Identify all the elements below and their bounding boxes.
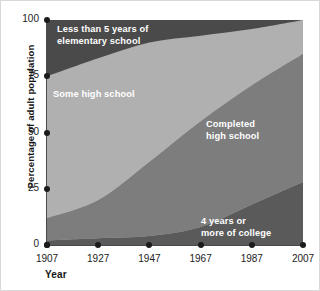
x-tick-marker (44, 242, 50, 248)
band-label-completed-line2: high school (206, 131, 259, 141)
band-label-some-high-school-text: Some high school (53, 89, 135, 99)
x-axis-title: Year (45, 269, 67, 280)
chart-frame: Percentage of adult population 025507510… (0, 0, 320, 291)
x-tick-label: 1947 (127, 253, 171, 264)
y-tick-label: 25 (11, 182, 39, 193)
y-tick-marker (44, 130, 50, 136)
band-label-some-high-school: Some high school (53, 89, 183, 101)
x-tick-label: 2007 (281, 253, 320, 264)
band-label-completed-line1: Completed (206, 119, 255, 129)
band-label-completed-high-school: Completed high school (206, 119, 306, 142)
y-tick-marker (44, 186, 50, 192)
x-tick-marker (146, 242, 152, 248)
band-label-elementary: Less than 5 years of elementary school (57, 24, 207, 47)
x-tick-label: 1907 (25, 253, 69, 264)
band-label-elementary-line1: Less than 5 years of (57, 24, 148, 34)
band-label-college-line2: more of college (201, 228, 271, 238)
y-tick-marker (44, 17, 50, 23)
x-axis-line (47, 245, 304, 246)
x-tick-label: 1967 (179, 253, 223, 264)
x-tick-marker (300, 242, 306, 248)
band-label-elementary-line2: elementary school (57, 36, 140, 46)
y-tick-label: 50 (11, 126, 39, 137)
band-label-college-line1: 4 years or (201, 216, 246, 226)
y-tick-label: 75 (11, 69, 39, 80)
y-tick-label: 100 (11, 13, 39, 24)
y-tick-label: 0 (11, 238, 39, 249)
x-tick-marker (95, 242, 101, 248)
x-tick-marker (249, 242, 255, 248)
x-tick-marker (198, 242, 204, 248)
x-tick-label: 1987 (230, 253, 274, 264)
x-tick-label: 1927 (76, 253, 120, 264)
band-label-college: 4 years or more of college (201, 216, 311, 239)
